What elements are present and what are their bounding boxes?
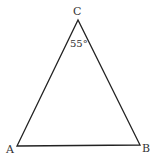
triangle-svg: C 55° A B bbox=[0, 0, 156, 167]
angle-label-c: 55° bbox=[70, 38, 88, 49]
triangle-diagram: C 55° A B bbox=[0, 0, 156, 167]
vertex-label-c: C bbox=[73, 5, 81, 18]
vertex-label-b: B bbox=[142, 142, 150, 155]
vertex-label-a: A bbox=[5, 143, 15, 156]
